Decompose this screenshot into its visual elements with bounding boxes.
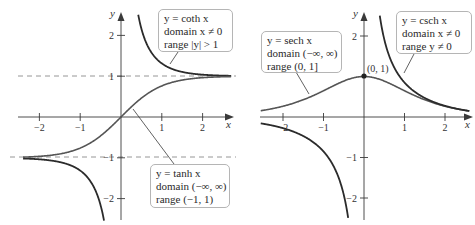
tanh-range: range (−1, 1) <box>156 193 224 206</box>
sech-curve <box>261 77 470 112</box>
x-tick-label: −1 <box>318 122 329 133</box>
csch-leader-line <box>404 54 414 73</box>
sech-leader-line <box>296 72 309 94</box>
csch-curve-negative <box>261 123 348 218</box>
coth-curve-negative <box>23 158 104 220</box>
y-tick-label: −1 <box>346 152 357 163</box>
x-tick-label: −2 <box>34 122 45 133</box>
sech-equation: y = sech x <box>267 34 336 47</box>
x-tick-label: 2 <box>200 122 205 133</box>
y-axis-arrow-right <box>361 12 368 21</box>
csch-domain: domain x ≠ 0 <box>402 27 466 40</box>
y-tick-label: −2 <box>346 193 357 204</box>
point-0-1 <box>361 73 366 78</box>
x-axis-label-right: x <box>464 118 470 130</box>
tanh-equation: y = tanh x <box>156 167 224 180</box>
y-axis-arrow-left <box>118 12 125 21</box>
x-tick-label: −1 <box>75 122 86 133</box>
tanh-domain: domain (−∞, ∞) <box>156 180 224 193</box>
tanh-label-box: y = tanh x domain (−∞, ∞) range (−1, 1) <box>150 164 230 208</box>
y-axis-label-right: y <box>352 7 358 19</box>
sech-label-box: y = sech x domain (−∞, ∞) range (0, 1] <box>261 31 342 73</box>
y-tick-label: 1 <box>109 71 114 82</box>
sech-domain: domain (−∞, ∞) <box>267 47 336 60</box>
sech-range: range (0, 1] <box>267 60 336 73</box>
coth-equation: y = coth x <box>164 12 227 25</box>
csch-equation: y = csch x <box>402 14 466 27</box>
y-tick-label: 2 <box>109 30 114 41</box>
coth-domain: domain x ≠ 0 <box>164 25 227 38</box>
x-axis-label-left: x <box>225 118 231 130</box>
coth-range: range |y| > 1 <box>164 38 227 51</box>
coth-leader-line <box>170 52 178 64</box>
coth-label-box: y = coth x domain x ≠ 0 range |y| > 1 <box>158 9 233 52</box>
y-tick-label: −2 <box>103 193 114 204</box>
y-axis-label-left: y <box>109 7 115 19</box>
point-label: (0, 1) <box>367 63 389 75</box>
x-tick-label: 1 <box>159 122 164 133</box>
csch-label-box: y = csch x domain x ≠ 0 range y ≠ 0 <box>396 11 472 54</box>
csch-range: range y ≠ 0 <box>402 40 466 53</box>
x-tick-label: 1 <box>402 122 407 133</box>
y-tick-label: −1 <box>103 152 114 163</box>
y-tick-label: 2 <box>352 31 357 42</box>
x-tick-label: 2 <box>443 122 448 133</box>
